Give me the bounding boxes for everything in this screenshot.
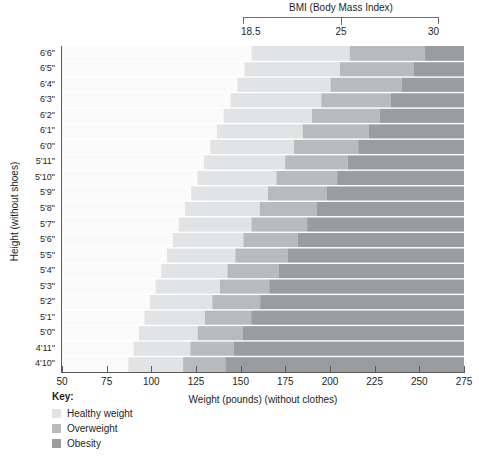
zone-obesity-row — [297, 232, 464, 248]
zone-obesity-row — [413, 62, 464, 78]
zone-healthy-row — [185, 201, 260, 217]
zone-underweight-row — [62, 341, 134, 357]
row-separator — [62, 138, 464, 139]
x-tick-label: 275 — [456, 376, 473, 387]
zone-overweight-row — [220, 279, 269, 295]
row-separator — [62, 216, 464, 217]
zone-healthy-row — [139, 325, 198, 341]
y-tick-label: 5'9" — [40, 188, 55, 197]
legend-item: Overweight — [52, 421, 133, 435]
zone-obesity-row — [380, 108, 464, 124]
y-tick-label: 6'6" — [40, 49, 55, 58]
legend-items: Healthy weightOverweightObesity — [52, 406, 133, 450]
row-separator — [62, 278, 464, 279]
zone-underweight-row — [62, 232, 173, 248]
footer-caption — [0, 454, 479, 460]
zone-healthy-row — [204, 155, 285, 171]
zone-obesity-row — [225, 356, 464, 372]
y-tick-label: 4'11" — [36, 344, 55, 353]
y-tick-label: 5'6" — [40, 235, 55, 244]
row-separator — [62, 61, 464, 62]
row-separator — [62, 294, 464, 295]
row-separator — [62, 76, 464, 77]
y-tick-label: 5'3" — [40, 282, 55, 291]
x-axis-line — [61, 372, 465, 373]
bmi-scale-mid-tick — [341, 17, 342, 25]
zone-obesity-row — [337, 170, 464, 186]
x-tick — [285, 366, 286, 373]
zone-obesity-row — [251, 310, 464, 326]
zone-obesity-row — [234, 341, 464, 357]
x-tick-label: 175 — [277, 376, 294, 387]
zone-underweight-row — [62, 279, 156, 295]
x-tick-label: 125 — [188, 376, 205, 387]
row-separator — [62, 247, 464, 248]
x-tick — [419, 366, 420, 373]
zone-underweight-row — [62, 325, 139, 341]
zone-obesity-row — [369, 124, 464, 140]
bmi-tick-label-1: 25 — [335, 26, 346, 37]
bmi-tick-label-2: 30 — [428, 26, 439, 37]
zone-overweight-row — [350, 46, 425, 62]
y-tick-label: 5'11" — [36, 157, 55, 166]
zone-underweight-row — [62, 46, 252, 62]
y-tick-label: 6'1" — [40, 126, 55, 135]
zone-healthy-row — [197, 170, 276, 186]
row-separator — [62, 325, 464, 326]
row-separator — [62, 263, 464, 264]
x-tick — [107, 366, 108, 373]
zone-underweight-row — [62, 263, 161, 279]
zone-obesity-row — [425, 46, 464, 62]
row-separator — [62, 169, 464, 170]
zone-obesity-row — [307, 217, 464, 233]
zone-underweight-row — [62, 310, 144, 326]
legend-item: Obesity — [52, 436, 133, 450]
y-tick-label: 5'7" — [40, 220, 55, 229]
zone-overweight-row — [268, 186, 327, 202]
zone-healthy-row — [191, 186, 268, 202]
y-tick-label: 6'5" — [40, 64, 55, 73]
zone-overweight-row — [190, 341, 233, 357]
legend-label: Overweight — [67, 423, 118, 434]
zone-overweight-row — [331, 77, 402, 93]
zone-underweight-row — [62, 77, 237, 93]
zone-overweight-row — [285, 155, 348, 171]
y-tick-label: 4'10" — [35, 359, 55, 368]
y-tick-label: 5'2" — [40, 297, 55, 306]
bmi-scale-header: BMI (Body Mass Index) 18.5 25 30 — [243, 2, 439, 42]
y-tick-label: 5'5" — [40, 251, 55, 260]
zone-underweight-row — [62, 139, 210, 155]
zone-obesity-row — [317, 201, 464, 217]
x-tick-label: 150 — [232, 376, 249, 387]
x-tick — [464, 366, 465, 373]
bmi-tick-label-0: 18.5 — [241, 26, 260, 37]
x-tick — [62, 366, 63, 373]
legend-label: Obesity — [67, 438, 101, 449]
zone-healthy-row — [230, 93, 321, 109]
zone-overweight-row — [340, 62, 413, 78]
zone-overweight-row — [294, 139, 358, 155]
zone-underweight-row — [62, 217, 179, 233]
zone-overweight-row — [205, 310, 251, 326]
zone-obesity-row — [269, 279, 464, 295]
legend-title: Key: — [52, 391, 133, 402]
zone-overweight-row — [183, 356, 225, 372]
row-separator — [62, 201, 464, 202]
row-separator — [62, 356, 464, 357]
x-tick — [375, 366, 376, 373]
zone-underweight-row — [62, 62, 244, 78]
zone-overweight-row — [212, 294, 260, 310]
x-tick — [196, 366, 197, 373]
zone-overweight-row — [198, 325, 243, 341]
zone-underweight-row — [62, 93, 230, 109]
x-tick-label: 100 — [143, 376, 160, 387]
row-separator — [62, 123, 464, 124]
zone-healthy-row — [173, 232, 243, 248]
row-separator — [62, 232, 464, 233]
zone-underweight-row — [62, 356, 128, 372]
row-separator — [62, 185, 464, 186]
zone-underweight-row — [62, 170, 197, 186]
x-tick-label: 200 — [322, 376, 339, 387]
zone-overweight-row — [243, 232, 297, 248]
x-tick-label: 225 — [366, 376, 383, 387]
